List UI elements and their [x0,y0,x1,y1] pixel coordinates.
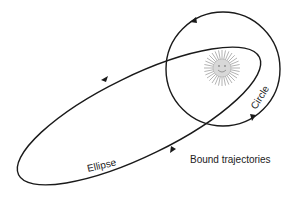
circle-label: Circle [248,83,271,111]
sun-icon [204,50,240,86]
circle-arrow-top [190,17,197,23]
ellipse-label: Ellipse [86,157,118,174]
diagram-title: Bound trajectories [190,154,271,165]
ellipse-arrow-upper [101,76,108,82]
ellipse-orbit [1,21,277,198]
ellipse-arrow-lower [170,146,176,153]
circle-arrow-right [250,114,256,121]
bound-trajectories-diagram: Ellipse Circle Bound trajectories [0,0,296,198]
